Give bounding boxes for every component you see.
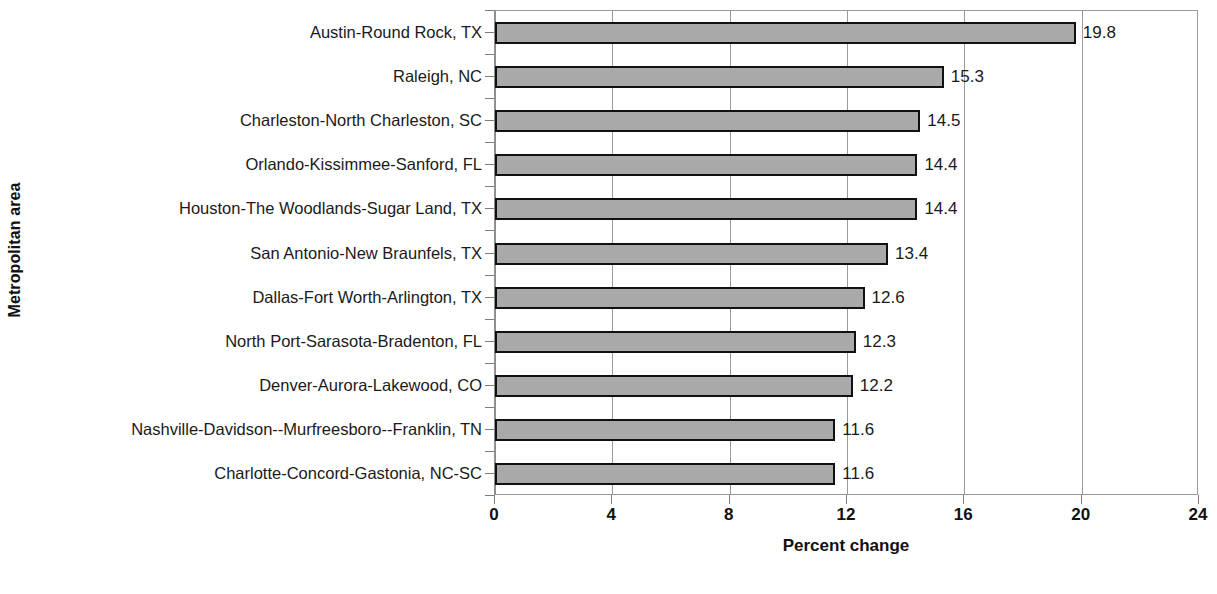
- category-label: San Antonio-New Braunfels, TX: [30, 245, 482, 262]
- y-axis-tick: [485, 495, 494, 496]
- x-axis-tick-label: 20: [1071, 505, 1090, 525]
- x-axis-tick: [846, 495, 847, 504]
- y-axis-tick: [485, 451, 494, 452]
- category-label: Austin-Round Rock, TX: [30, 24, 482, 41]
- category-label: Orlando-Kissimmee-Sanford, FL: [30, 156, 482, 173]
- y-axis-title-text: Metropolitan area: [6, 182, 24, 317]
- bar: [495, 154, 917, 176]
- category-label: Charlotte-Concord-Gastonia, NC-SC: [30, 465, 482, 482]
- y-axis-category-tick: [485, 473, 494, 474]
- bar-value-label: 15.3: [951, 68, 984, 85]
- x-axis-tick: [494, 495, 495, 504]
- y-axis-category-tick: [485, 164, 494, 165]
- y-axis-tick: [485, 230, 494, 231]
- x-axis-tick-label: 4: [607, 505, 616, 525]
- y-axis-title: Metropolitan area: [0, 0, 30, 500]
- bar: [495, 66, 944, 88]
- bar: [495, 243, 888, 265]
- bar: [495, 419, 835, 441]
- x-axis-tick-label: 8: [724, 505, 733, 525]
- x-axis-tick: [1198, 495, 1199, 504]
- bar-value-label: 12.6: [872, 289, 905, 306]
- bar: [495, 287, 865, 309]
- x-axis-tick: [611, 495, 612, 504]
- y-axis-category-tick: [485, 385, 494, 386]
- y-axis-tick: [485, 186, 494, 187]
- y-axis-tick: [485, 142, 494, 143]
- y-axis-tick: [485, 363, 494, 364]
- category-label: Denver-Aurora-Lakewood, CO: [30, 377, 482, 394]
- bar: [495, 375, 853, 397]
- y-axis-tick: [485, 98, 494, 99]
- x-axis-tick-label: 24: [1189, 505, 1208, 525]
- y-axis-category-tick: [485, 253, 494, 254]
- y-axis-category-tick: [485, 429, 494, 430]
- gridline: [1082, 11, 1083, 494]
- bar: [495, 22, 1076, 44]
- y-axis-tick: [485, 319, 494, 320]
- plot-inner: 19.815.314.514.414.413.412.612.312.211.6…: [495, 11, 1197, 494]
- category-label: Charleston-North Charleston, SC: [30, 112, 482, 129]
- x-axis-title: Percent change: [494, 536, 1198, 556]
- y-axis-tick: [485, 10, 494, 11]
- bar-value-label: 13.4: [895, 245, 928, 262]
- chart-page: Metropolitan area Austin-Round Rock, TXR…: [0, 0, 1217, 594]
- y-axis-category-tick: [485, 32, 494, 33]
- category-label: North Port-Sarasota-Bradenton, FL: [30, 333, 482, 350]
- category-label: Raleigh, NC: [30, 68, 482, 85]
- y-axis-tick: [485, 275, 494, 276]
- bar: [495, 110, 920, 132]
- bar-value-label: 11.6: [842, 465, 874, 482]
- plot-area: 19.815.314.514.414.413.412.612.312.211.6…: [494, 10, 1198, 495]
- bar: [495, 198, 917, 220]
- y-axis-category-tick: [485, 297, 494, 298]
- bar-value-label: 12.2: [860, 377, 893, 394]
- x-axis-tick-marks: [494, 495, 1198, 504]
- x-axis-tick: [963, 495, 964, 504]
- y-axis-category-tick: [485, 208, 494, 209]
- category-label: Nashville-Davidson--Murfreesboro--Frankl…: [30, 421, 482, 438]
- bar-value-label: 14.5: [927, 112, 960, 129]
- y-axis-tick: [485, 407, 494, 408]
- bar: [495, 331, 856, 353]
- bar-value-label: 11.6: [842, 421, 874, 438]
- x-axis-tick-label: 0: [489, 505, 498, 525]
- y-axis-tick: [485, 54, 494, 55]
- x-axis-tick: [1081, 495, 1082, 504]
- bar-value-label: 19.8: [1083, 24, 1116, 41]
- y-axis-category-tick: [485, 341, 494, 342]
- bar-value-label: 14.4: [924, 156, 957, 173]
- category-label-column: Austin-Round Rock, TXRaleigh, NCCharlest…: [30, 10, 482, 495]
- x-axis-tick-labels: 04812162024: [494, 505, 1198, 531]
- y-axis-category-tick: [485, 76, 494, 77]
- bar-value-label: 14.4: [924, 200, 957, 217]
- y-axis-category-tick: [485, 120, 494, 121]
- category-label: Houston-The Woodlands-Sugar Land, TX: [30, 200, 482, 217]
- bar: [495, 463, 835, 485]
- bar-value-label: 12.3: [863, 333, 896, 350]
- category-label: Dallas-Fort Worth-Arlington, TX: [30, 289, 482, 306]
- x-axis-tick: [729, 495, 730, 504]
- x-axis-tick-label: 12: [837, 505, 856, 525]
- x-axis-tick-label: 16: [954, 505, 973, 525]
- y-axis-tick-marks: [484, 10, 494, 495]
